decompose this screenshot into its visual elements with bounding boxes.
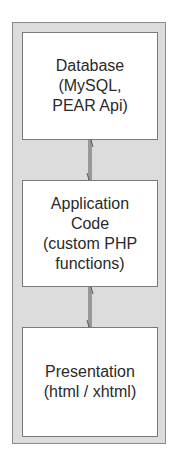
- application-layer-line-3: (custom PHP: [43, 234, 137, 254]
- presentation-layer-line-1: Presentation: [45, 362, 135, 382]
- database-layer-line-1: Database: [56, 56, 125, 76]
- database-layer-line-2: (MySQL,: [58, 76, 121, 96]
- presentation-layer-box: Presentation (html / xhtml): [22, 327, 158, 437]
- database-layer-line-3: PEAR Api): [52, 96, 128, 116]
- app-presentation-arrow-icon: [86, 287, 94, 327]
- application-layer-line-1: Application: [51, 194, 129, 214]
- application-layer-line-4: functions): [55, 254, 124, 274]
- database-layer-box: Database (MySQL, PEAR Api): [22, 32, 158, 140]
- application-layer-line-2: Code: [71, 214, 109, 234]
- presentation-layer-line-2: (html / xhtml): [44, 382, 136, 402]
- db-app-arrow-icon: [86, 140, 94, 180]
- application-layer-box: Application Code (custom PHP functions): [22, 180, 158, 287]
